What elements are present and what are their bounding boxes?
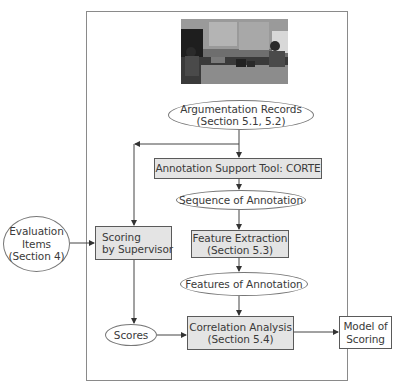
features-of-annotation-node: Features of Annotation xyxy=(180,272,308,296)
sequence-of-annotation-node: Sequence of Annotation xyxy=(176,190,306,210)
argumentation-records-node: Argumentation Records (Section 5.1, 5.2) xyxy=(168,100,314,130)
scores-node: Scores xyxy=(105,324,157,346)
evaluation-items-label-1: Evaluation xyxy=(8,225,64,238)
evaluation-items-node: Evaluation Items (Section 4) xyxy=(3,216,70,272)
argumentation-records-section: (Section 5.1, 5.2) xyxy=(180,115,302,128)
corte-label: Annotation Support Tool: CORTE xyxy=(155,162,320,175)
scoring-label-2: by Supervisor xyxy=(102,243,173,256)
sequence-of-annotation-label: Sequence of Annotation xyxy=(179,194,303,207)
feature-extraction-node: Feature Extraction (Section 5.3) xyxy=(191,230,289,258)
corte-node: Annotation Support Tool: CORTE xyxy=(154,158,322,179)
correlation-analysis-node: Correlation Analysis (Section 5.4) xyxy=(187,316,294,350)
scoring-by-supervisor-node: Scoring by Supervisor xyxy=(95,226,172,260)
features-of-annotation-label: Features of Annotation xyxy=(185,278,302,291)
scoring-label-1: Scoring xyxy=(102,231,173,244)
evaluation-items-label-2: Items xyxy=(8,238,64,251)
model-of-scoring-label-1: Model of xyxy=(343,320,387,333)
evaluation-items-section: (Section 4) xyxy=(8,250,64,263)
argumentation-records-label: Argumentation Records xyxy=(180,103,302,116)
correlation-analysis-section: (Section 5.4) xyxy=(189,333,292,346)
correlation-analysis-label: Correlation Analysis xyxy=(189,321,292,334)
model-of-scoring-node: Model of Scoring xyxy=(339,316,392,349)
feature-extraction-label: Feature Extraction xyxy=(193,232,288,245)
model-of-scoring-label-2: Scoring xyxy=(343,333,387,346)
feature-extraction-section: (Section 5.3) xyxy=(193,244,288,257)
scores-label: Scores xyxy=(114,329,148,342)
